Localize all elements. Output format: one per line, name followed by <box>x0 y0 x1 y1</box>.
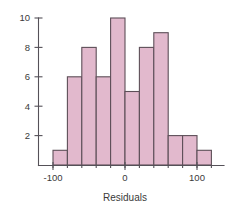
histogram-bar <box>96 77 110 165</box>
x-tick-label: -100 <box>43 172 62 183</box>
histogram-bar <box>125 92 139 166</box>
chart-canvas: 246810 -1000100 Residuals <box>0 0 242 215</box>
histogram-bar <box>82 47 96 165</box>
histogram-bar <box>183 136 197 165</box>
histogram-bar <box>111 18 125 165</box>
histogram-bar <box>139 47 153 165</box>
histogram-bar <box>197 150 211 165</box>
y-tick-label: 4 <box>25 101 30 112</box>
histogram-bar <box>67 77 81 165</box>
y-tick-label: 2 <box>25 130 30 141</box>
x-tick-label: 0 <box>122 172 127 183</box>
y-tick-label: 10 <box>19 12 30 23</box>
histogram-chart: 246810 -1000100 Residuals <box>0 0 242 215</box>
x-axis-title: Residuals <box>103 192 147 203</box>
y-tick-label: 8 <box>25 42 30 53</box>
histogram-bar <box>154 33 168 165</box>
histogram-bar <box>53 150 67 165</box>
y-tick-label: 6 <box>25 71 30 82</box>
x-tick-label: 100 <box>189 172 205 183</box>
histogram-bar <box>168 136 182 165</box>
